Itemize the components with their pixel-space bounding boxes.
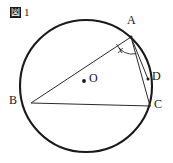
- figure-caption: 図 1: [10, 6, 30, 18]
- angle-label-x: x: [118, 44, 123, 55]
- center-label-o: O: [89, 72, 98, 84]
- point-label-b: B: [9, 94, 17, 106]
- point-marker-a: [130, 36, 133, 39]
- zu-kanji-figure-marker-icon: 図: [10, 7, 21, 18]
- geometry-figure-canvas: 図 1 A B C D O x: [0, 0, 173, 163]
- segment-b-c: [31, 103, 151, 106]
- center-dot: [82, 79, 86, 83]
- segment-b-a: [31, 37, 131, 103]
- point-label-d: D: [152, 70, 161, 82]
- figure-drawing: [0, 0, 173, 163]
- point-label-a: A: [127, 14, 136, 26]
- point-label-c: C: [154, 98, 162, 110]
- point-marker-d: [147, 78, 150, 81]
- figure-number: 1: [24, 6, 30, 18]
